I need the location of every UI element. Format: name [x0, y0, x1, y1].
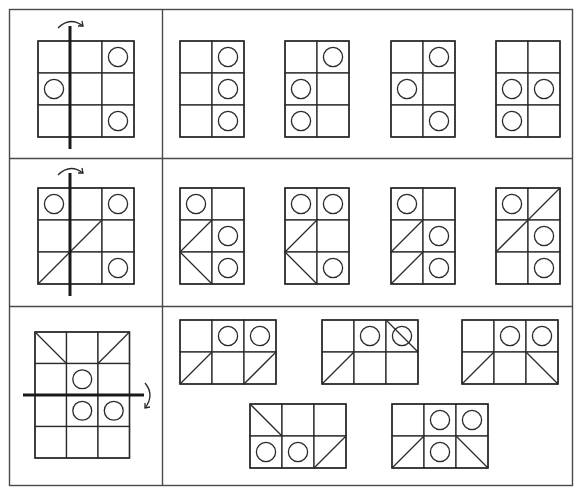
- puzzle-row: [23, 320, 558, 468]
- grid-cell: [528, 220, 560, 252]
- grid-cell: [423, 41, 455, 73]
- puzzle-row: [38, 21, 560, 149]
- grid-cell: [391, 105, 423, 137]
- grid-cell: [212, 73, 244, 105]
- puzzle-stage: [0, 0, 582, 495]
- grid-cell: [212, 105, 244, 137]
- grid-cell: [392, 404, 424, 436]
- grid-cell: [423, 73, 455, 105]
- grid-cell: [423, 252, 455, 284]
- option-grid: [285, 41, 349, 137]
- grid-cell: [528, 105, 560, 137]
- grid-cell: [282, 404, 314, 436]
- option-grid: [496, 41, 560, 137]
- grid-cell: [354, 320, 386, 352]
- option-grid: [496, 188, 560, 284]
- grid-cell: [38, 105, 70, 137]
- option-grid: [391, 41, 455, 137]
- grid-cell: [70, 73, 102, 105]
- question-figure: [38, 21, 134, 149]
- question-figure: [23, 332, 150, 458]
- grid-cell: [102, 188, 134, 220]
- grid-cell: [98, 395, 130, 427]
- grid-cell: [102, 252, 134, 284]
- answer-options: [180, 320, 558, 468]
- grid-cell: [180, 105, 212, 137]
- grid-cell: [212, 188, 244, 220]
- grid-cell: [212, 41, 244, 73]
- grid-cell: [102, 73, 134, 105]
- grid-cell: [317, 73, 349, 105]
- grid-cell: [391, 188, 423, 220]
- grid-cell: [391, 73, 423, 105]
- grid-cell: [528, 41, 560, 73]
- grid-cell: [526, 320, 558, 352]
- grid-cell: [180, 41, 212, 73]
- grid-cell: [496, 73, 528, 105]
- grid-cell: [180, 73, 212, 105]
- grid-cell: [180, 320, 212, 352]
- grid-cell: [423, 220, 455, 252]
- grid-cell: [456, 404, 488, 436]
- grid-cell: [67, 427, 99, 459]
- grid-cell: [102, 105, 134, 137]
- grid-cell: [314, 404, 346, 436]
- grid-cell: [423, 105, 455, 137]
- grid-cell: [244, 320, 276, 352]
- arrow-curve: [145, 383, 150, 408]
- option-grid: [180, 320, 276, 384]
- option-grid: [322, 320, 418, 384]
- grid-cell: [35, 395, 67, 427]
- grid-cell: [67, 395, 99, 427]
- grid-cell: [317, 252, 349, 284]
- grid-cell: [496, 188, 528, 220]
- question-grid: [38, 41, 134, 137]
- answer-options: [180, 41, 560, 137]
- puzzle-row: [38, 168, 560, 296]
- grid-cell: [423, 188, 455, 220]
- grid-cell: [212, 220, 244, 252]
- grid-cell: [70, 105, 102, 137]
- grid-cell: [70, 252, 102, 284]
- option-grid: [180, 41, 244, 137]
- grid-cell: [494, 320, 526, 352]
- grid-cell: [285, 188, 317, 220]
- grid-cell: [386, 352, 418, 384]
- option-grid: [391, 188, 455, 284]
- grid-cell: [70, 41, 102, 73]
- grid-cell: [38, 220, 70, 252]
- grid-cell: [285, 105, 317, 137]
- grid-cell: [424, 404, 456, 436]
- grid-cell: [35, 427, 67, 459]
- question-figure: [38, 168, 134, 296]
- grid-cell: [322, 320, 354, 352]
- grid-cell: [424, 436, 456, 468]
- grid-cell: [528, 252, 560, 284]
- grid-cell: [38, 73, 70, 105]
- grid-cell: [212, 252, 244, 284]
- answer-options: [180, 188, 560, 284]
- grid-cell: [35, 364, 67, 396]
- grid-cell: [70, 188, 102, 220]
- grid-cell: [285, 73, 317, 105]
- grid-cell: [38, 41, 70, 73]
- grid-cell: [250, 436, 282, 468]
- question-grid: [38, 188, 134, 284]
- grid-cell: [98, 364, 130, 396]
- grid-cell: [102, 220, 134, 252]
- grid-cell: [317, 41, 349, 73]
- grid-cell: [282, 436, 314, 468]
- grid-cell: [180, 188, 212, 220]
- grid-cell: [38, 188, 70, 220]
- grid-cell: [67, 364, 99, 396]
- grid-cell: [391, 41, 423, 73]
- grid-cell: [285, 41, 317, 73]
- grid-cell: [67, 332, 99, 364]
- grid-cell: [494, 352, 526, 384]
- grid-cell: [98, 427, 130, 459]
- option-grid: [285, 188, 349, 284]
- grid-cell: [317, 105, 349, 137]
- grid-cell: [102, 41, 134, 73]
- grid-cell: [317, 188, 349, 220]
- grid-cell: [528, 73, 560, 105]
